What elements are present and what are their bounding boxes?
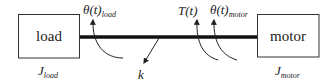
theta-load-label: θ(t)load: [83, 2, 117, 19]
inertia-load-label: Jload: [38, 63, 59, 80]
torsional-system-diagram: load motor θ(t)load T(t) θ(t)motor k Jlo…: [0, 0, 336, 83]
theta-load-arrow-icon: [93, 20, 123, 58]
stiffness-label: k: [138, 67, 144, 82]
motor-label: motor: [270, 28, 306, 44]
stiffness-arrow-icon: [144, 38, 159, 63]
motor-inertia-block: motor: [258, 15, 320, 58]
torque-label: T(t): [178, 3, 198, 18]
theta-motor-arrow-icon: [214, 20, 237, 60]
load-label: load: [36, 28, 62, 44]
inertia-motor-label: Jmotor: [275, 63, 301, 80]
theta-motor-label: θ(t)motor: [210, 2, 249, 19]
load-inertia-block: load: [19, 15, 80, 59]
torque-arrow-icon: [197, 20, 218, 60]
